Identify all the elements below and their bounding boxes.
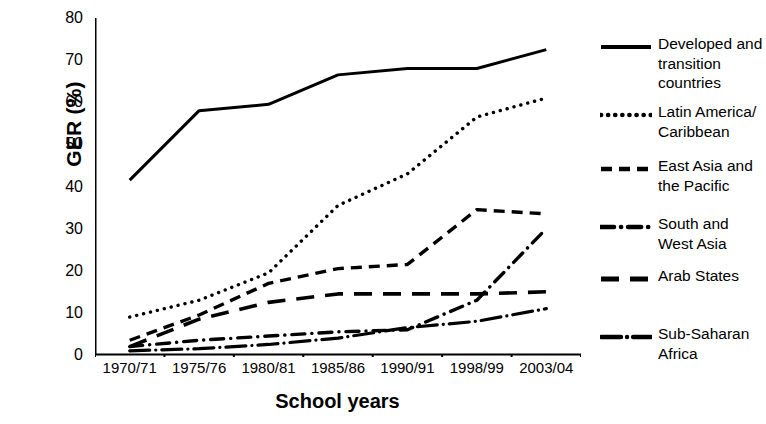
y-tick-label: 70 [43,52,83,68]
x-tick-label: 2003/04 [503,360,589,376]
plot-area [95,18,581,355]
y-tick-label: 0 [43,347,83,363]
solid-dot-line-key [600,324,656,341]
legend-item[interactable]: Sub-Saharan Africa [600,324,766,363]
y-tick-label: 40 [43,179,83,195]
legend-item[interactable]: Developed and transition countries [600,34,766,93]
chart-canvas [95,18,581,357]
legend-label: East Asia and the Pacific [656,156,766,195]
series-line [130,98,547,317]
long-dash-line-key [600,266,656,283]
legend-label: Sub-Saharan Africa [656,324,766,363]
y-tick-label: 20 [43,263,83,279]
y-tick-label: 50 [43,136,83,152]
legend-label: Arab States [656,266,739,286]
solid-line-key [600,34,656,51]
legend-item[interactable]: Latin America/ Caribbean [600,102,766,141]
series-line [130,229,547,347]
x-axis-title: School years [95,390,580,413]
legend-label: South and West Asia [656,214,766,253]
axis-lines [95,18,581,357]
legend-label: Developed and transition countries [656,34,766,93]
legend-item[interactable]: East Asia and the Pacific [600,156,766,195]
dash-dot-line-key [600,214,656,231]
legend-item[interactable]: Arab States [600,266,766,286]
y-tick-label: 60 [43,94,83,110]
series-line [130,309,547,351]
legend-item[interactable]: South and West Asia [600,214,766,253]
chart-figure: GER (%) School years 80706050403020100 1… [0,0,766,424]
legend-label: Latin America/ Caribbean [656,102,766,141]
dotted-line-key [600,102,656,119]
y-tick-label: 30 [43,221,83,237]
y-tick-label: 80 [43,10,83,26]
series-line [130,50,547,181]
dashed-line-key [600,156,656,173]
y-tick-label: 10 [43,305,83,321]
